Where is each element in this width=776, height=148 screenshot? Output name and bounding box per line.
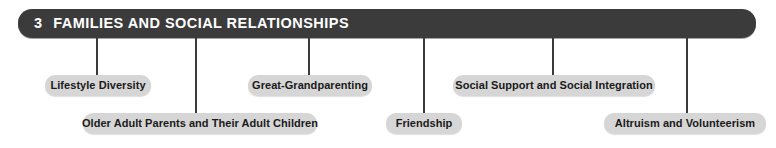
connector-line-lifestyle-diversity [96, 38, 98, 75]
topic-node-altruism-and-volunteerism[interactable]: Altruism and Volunteerism [604, 113, 766, 134]
topic-node-label: Friendship [396, 118, 453, 129]
topic-node-label: Lifestyle Diversity [50, 80, 145, 91]
topic-node-friendship[interactable]: Friendship [386, 113, 462, 134]
connector-line-altruism-volunteerism [686, 38, 688, 113]
connector-line-great-grandparenting [308, 38, 310, 75]
topic-node-social-support-and-social-integration[interactable]: Social Support and Social Integration [453, 75, 655, 96]
chapter-number: 3 [34, 16, 42, 31]
chapter-title: FAMILIES AND SOCIAL RELATIONSHIPS [53, 16, 349, 31]
topic-node-label: Great-Grandparenting [252, 80, 368, 91]
connector-line-friendship [423, 38, 425, 113]
topic-node-lifestyle-diversity[interactable]: Lifestyle Diversity [45, 75, 151, 96]
topic-node-great-grandparenting[interactable]: Great-Grandparenting [248, 75, 372, 96]
chapter-header-bar: 3 FAMILIES AND SOCIAL RELATIONSHIPS [18, 9, 756, 38]
topic-node-label: Social Support and Social Integration [455, 80, 652, 91]
connector-line-social-support [552, 38, 554, 75]
topic-node-label: Altruism and Volunteerism [615, 118, 755, 129]
connector-line-older-adult-parents [195, 38, 197, 113]
topic-node-label: Older Adult Parents and Their Adult Chil… [82, 118, 318, 129]
chapter-header-content: 3 FAMILIES AND SOCIAL RELATIONSHIPS [18, 9, 756, 38]
topic-node-older-adult-parents-and-their-adult-children[interactable]: Older Adult Parents and Their Adult Chil… [83, 113, 317, 134]
chapter-outline-diagram: 3 FAMILIES AND SOCIAL RELATIONSHIPS Life… [0, 0, 776, 148]
